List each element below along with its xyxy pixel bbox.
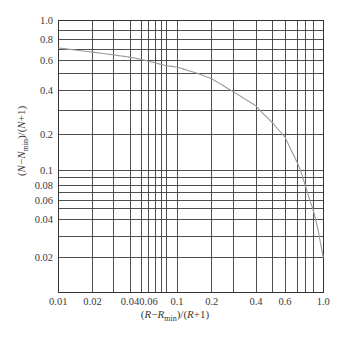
y-tick-label: 0.06: [35, 195, 53, 206]
y-tick-label: 0.6: [40, 55, 53, 66]
chart: 0.010.020.040.060.10.20.40.61.0 1.00.80.…: [0, 0, 348, 337]
axis-label-part: )/(: [177, 308, 188, 321]
y-tick-label: 0.4: [40, 85, 54, 96]
x-tick-label: 0.02: [83, 296, 101, 307]
axis-label-part: min: [21, 139, 30, 151]
y-tick-label: 0.08: [35, 180, 53, 191]
x-tick-label: 0.4: [249, 296, 263, 307]
axis-label-part: +1): [15, 106, 28, 122]
x-tick-label: 0.6: [278, 296, 291, 307]
x-tick-label: 0.06: [139, 296, 157, 307]
y-tick-label: 0.04: [35, 214, 54, 225]
y-tick-label: 0.2: [40, 129, 53, 140]
x-tick-label: 0.1: [170, 296, 183, 307]
axis-label-part: +1): [194, 308, 210, 321]
y-tick-label: 1.0: [40, 15, 53, 26]
x-tick-label: 1.0: [317, 296, 330, 307]
axis-label-part: )/(: [15, 128, 28, 139]
x-tick-label: 0.04: [121, 296, 140, 307]
y-tick-label: 0.02: [35, 252, 53, 263]
x-tick-label: 0.01: [49, 296, 67, 307]
x-tick-label: 0.2: [205, 296, 218, 307]
y-tick-label: 0.8: [40, 34, 53, 45]
y-tick-label: 0.1: [40, 165, 53, 176]
axis-label-part: min: [164, 314, 176, 323]
